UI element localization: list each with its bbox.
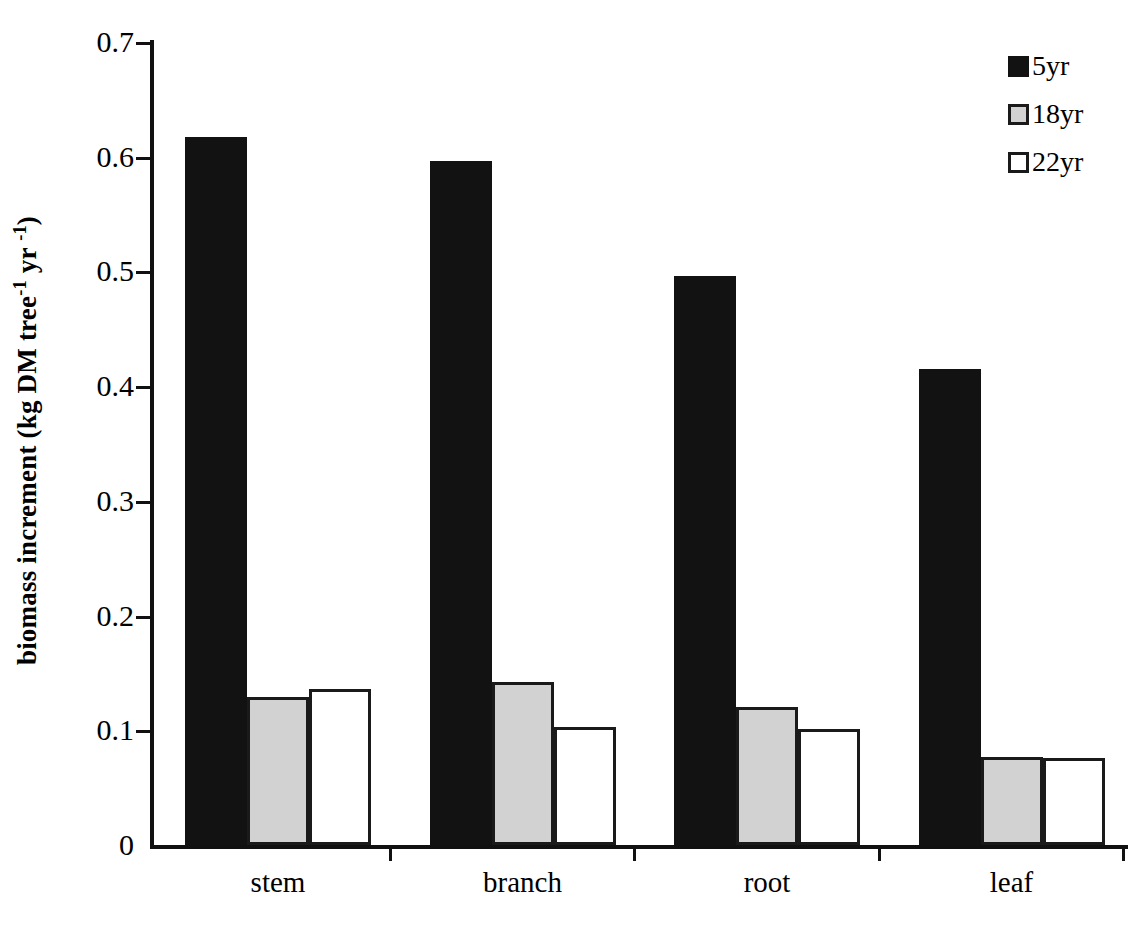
plot-area: [150, 42, 1128, 845]
x-tick-mark: [389, 848, 392, 861]
y-axis-tick-label: 0.6: [97, 140, 135, 174]
legend-label-22yr: 22yr: [1032, 146, 1083, 178]
bar-leaf-18yr: [981, 757, 1043, 845]
bar-stem-5yr: [185, 137, 247, 845]
y-axis-tick-label: 0.1: [97, 713, 135, 747]
bar-root-5yr: [674, 276, 736, 845]
y-axis-label-container: biomass increment (kg DM tree-1 yr -1): [0, 0, 56, 880]
x-category-label-stem: stem: [251, 866, 306, 899]
legend-label-5yr: 5yr: [1032, 50, 1069, 82]
bar-stem-22yr: [309, 689, 371, 845]
legend-swatch-22yr: [1008, 152, 1029, 173]
bar-branch-5yr: [430, 161, 492, 845]
bar-branch-18yr: [492, 682, 554, 845]
legend-label-18yr: 18yr: [1032, 98, 1083, 130]
y-tick-mark: [136, 730, 151, 733]
y-axis-tick-label: 0: [119, 828, 134, 862]
bar-leaf-5yr: [919, 369, 981, 845]
y-axis-tick-label: 0.5: [97, 254, 135, 288]
bar-root-18yr: [736, 707, 798, 845]
x-tick-mark: [1122, 848, 1125, 861]
x-category-label-leaf: leaf: [990, 866, 1033, 899]
legend-item-22yr: 22yr: [1008, 140, 1148, 184]
chart-legend: 5yr18yr22yr: [1008, 44, 1148, 188]
y-tick-mark: [136, 157, 151, 160]
y-axis-tick-label: 0.7: [97, 25, 135, 59]
bar-root-22yr: [798, 729, 860, 845]
y-tick-mark: [136, 386, 151, 389]
legend-swatch-5yr: [1008, 56, 1029, 77]
y-axis-label: biomass increment (kg DM tree-1 yr -1): [13, 215, 44, 664]
y-tick-mark: [136, 616, 151, 619]
bar-stem-18yr: [247, 697, 309, 845]
y-axis-tick-label: 0.3: [97, 484, 135, 518]
legend-swatch-18yr: [1008, 104, 1029, 125]
bar-branch-22yr: [554, 727, 616, 845]
y-label-superscript-1: -1: [11, 280, 31, 296]
legend-item-5yr: 5yr: [1008, 44, 1148, 88]
y-tick-mark: [136, 501, 151, 504]
x-axis-line: [150, 845, 1128, 849]
y-axis-tick-label: 0.2: [97, 599, 135, 633]
y-axis-tick-labels: 00.10.20.30.40.50.60.7: [58, 0, 142, 936]
bar-series-container: [150, 42, 1128, 845]
y-tick-mark: [136, 271, 151, 274]
x-category-label-root: root: [744, 866, 791, 899]
x-tick-mark: [633, 848, 636, 861]
x-tick-mark: [878, 848, 881, 861]
x-category-label-branch: branch: [483, 866, 562, 899]
legend-item-18yr: 18yr: [1008, 92, 1148, 136]
bar-leaf-22yr: [1043, 758, 1105, 845]
x-axis-category-labels: stembranchrootleaf: [150, 866, 1128, 916]
y-label-superscript-2: -1: [11, 225, 31, 241]
y-tick-mark: [136, 42, 151, 45]
y-axis-tick-label: 0.4: [97, 369, 135, 403]
bar-chart-figure: biomass increment (kg DM tree-1 yr -1) 0…: [0, 0, 1148, 936]
